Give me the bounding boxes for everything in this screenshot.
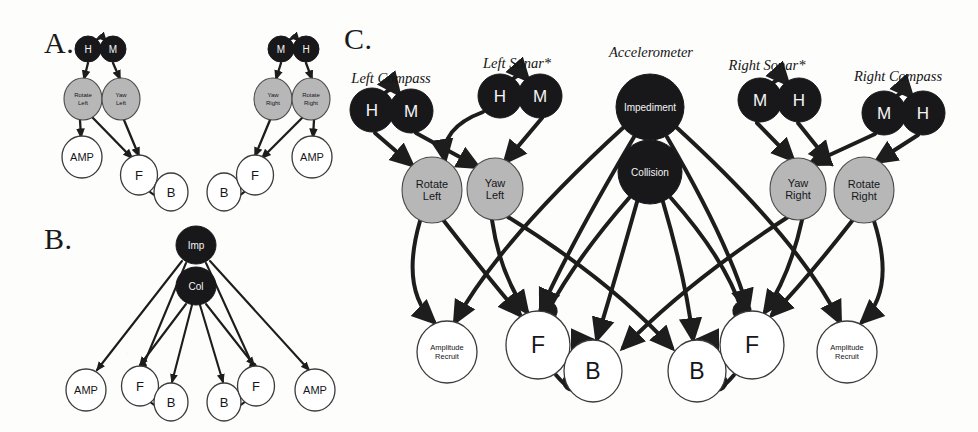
node-label: Yaw [485,177,506,189]
node-yaw-right[interactable]: YawRight [770,158,826,220]
node-left-sonar-h[interactable]: H [478,74,522,118]
node-rotate-right[interactable]: RotateRight [292,78,330,120]
node-label: B [689,358,704,384]
node-label: Right [851,190,877,202]
left-compass-label: Left Compass [351,70,430,87]
node-amp-left[interactable]: AMP [62,136,102,178]
node-label: AMP [303,384,327,396]
node-label: B [167,185,176,200]
node-label: F [531,332,545,358]
node-label: H [494,87,506,106]
nodes-layer: HMRotateLeftYawLeftAMPFBBFAMPYawRightRot… [62,36,945,421]
node-label: B [220,185,229,200]
node-b-left-b[interactable]: B [154,383,188,421]
panel-letter-c: C. [344,22,373,56]
node-label: Right [785,189,811,201]
node-amp-right[interactable]: AMP [292,136,332,178]
node-label: Imp [188,240,205,251]
node-left-sonar-m[interactable]: M [518,74,562,118]
node-label: Amplitude [430,343,463,352]
node-rotate-right[interactable]: RotateRight [834,157,894,223]
node-label: Right [266,100,280,106]
figure-canvas: HMRotateLeftYawLeftAMPFBBFAMPYawRightRot… [0,0,978,432]
node-label: Collision [631,167,669,178]
node-label: Left [78,100,88,106]
node-label: H [302,44,309,55]
node-left-compass-h[interactable]: H [75,36,101,62]
node-right-compass-h[interactable]: H [293,36,319,62]
node-label: Left [486,189,504,201]
node-label: Left [423,190,441,202]
panel-letter-b: B. [44,222,73,256]
left-sonar-label: Left Sonar* [483,55,551,72]
node-yaw-left[interactable]: YawLeft [467,158,523,220]
node-collision-short[interactable]: Col [176,267,216,305]
node-label: Rotate [74,92,92,98]
node-yaw-left[interactable]: YawLeft [102,78,140,120]
node-collision[interactable]: Collision [618,140,682,204]
node-label: Impediment [624,102,676,113]
node-label: Yaw [788,177,809,189]
node-label: H [917,104,929,123]
node-amplitude-recruit-right[interactable]: AmplitudeRecruit [817,321,877,383]
node-f-left[interactable]: F [121,155,158,195]
node-label: B [220,395,229,410]
node-label: AMP [300,151,324,163]
node-f-left[interactable]: F [506,311,570,379]
node-label: Rotate [302,92,320,98]
node-label: M [753,91,767,110]
node-f-left-b[interactable]: F [122,366,159,406]
node-left-compass-h[interactable]: H [350,88,394,132]
node-label: M [404,102,418,121]
node-left-compass-m[interactable]: M [100,36,126,62]
node-label: F [135,168,143,183]
node-right-compass-m[interactable]: M [268,36,294,62]
node-f-right[interactable]: F [237,155,274,195]
node-label: AMP [70,151,94,163]
node-label: Rotate [416,178,448,190]
right-compass-label: Right Compass [854,68,942,85]
node-right-compass-m[interactable]: M [862,91,906,135]
node-amp-left-b[interactable]: AMP [66,369,106,411]
node-amplitude-recruit-left[interactable]: AmplitudeRecruit [417,321,477,383]
node-label: Right [304,100,318,106]
node-yaw-right[interactable]: YawRight [254,78,292,120]
panel-letter-a: A. [44,26,74,60]
node-b-left[interactable]: B [564,340,622,402]
node-label: H [366,101,378,120]
node-b-right-b[interactable]: B [207,383,241,421]
node-left-compass-m[interactable]: M [389,89,433,133]
node-label: H [84,44,91,55]
node-label: F [136,379,144,394]
node-b-right[interactable]: B [668,340,726,402]
accelerometer-label: Accelerometer [609,44,693,61]
node-rotate-left[interactable]: RotateLeft [64,78,102,120]
node-label: M [109,44,117,55]
node-label: B [585,358,600,384]
node-label: Amplitude [830,343,863,352]
node-label: Recruit [835,352,860,361]
node-f-right-b[interactable]: F [238,366,275,406]
node-label: B [167,395,176,410]
node-b-left[interactable]: B [154,173,188,211]
node-label: H [793,91,805,110]
node-impediment[interactable]: Impediment [616,74,684,140]
node-right-sonar-h[interactable]: H [777,78,821,122]
node-rotate-left[interactable]: RotateLeft [402,157,462,223]
node-label: M [277,44,285,55]
node-label: F [251,168,259,183]
node-label: F [252,379,260,394]
node-amp-right-b[interactable]: AMP [295,369,335,411]
right-sonar-label: Right Sonar* [729,57,806,74]
node-f-right[interactable]: F [720,311,784,379]
node-right-compass-h[interactable]: H [901,91,945,135]
node-label: Recruit [435,352,460,361]
node-impediment-short[interactable]: Imp [176,226,216,264]
node-b-right[interactable]: B [207,173,241,211]
node-label: Col [188,281,203,292]
node-label: Yaw [267,92,279,98]
node-label: Rotate [848,178,880,190]
node-label: Yaw [115,92,127,98]
node-right-sonar-m[interactable]: M [738,78,782,122]
node-label: F [745,332,759,358]
